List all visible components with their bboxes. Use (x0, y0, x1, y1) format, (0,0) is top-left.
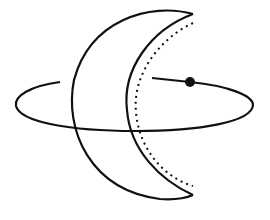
inner-dotted-arc (136, 23, 193, 186)
crescent-outer-arc (72, 10, 193, 199)
crescent-orbit-diagram (0, 0, 270, 220)
crescent-inner-arc (126, 14, 193, 195)
orbit-dot (185, 77, 195, 87)
orbit-ellipse-front (16, 82, 253, 131)
orbit-ellipse-inner-segment (152, 78, 190, 82)
